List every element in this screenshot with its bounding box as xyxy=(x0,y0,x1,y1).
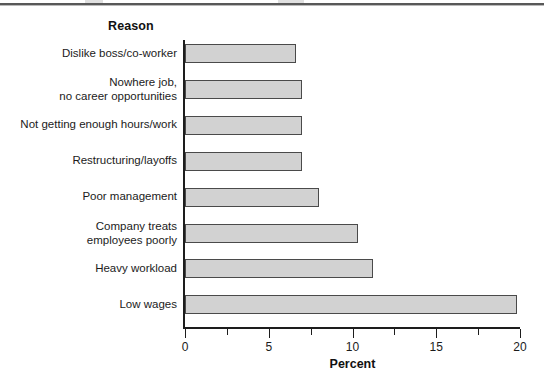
x-tick-label: 0 xyxy=(182,340,189,354)
bar-row: Company treats employees poorly xyxy=(185,224,358,243)
x-tick-major xyxy=(269,329,270,338)
bar-category-label: Low wages xyxy=(119,298,177,312)
bar-row: Not getting enough hours/work xyxy=(185,116,302,135)
x-axis-line xyxy=(183,327,520,329)
bar xyxy=(185,44,296,63)
x-axis-title: Percent xyxy=(185,357,520,371)
x-tick-major xyxy=(436,329,437,338)
bar xyxy=(185,80,302,99)
bar xyxy=(185,259,373,278)
x-tick-label: 10 xyxy=(346,340,359,354)
bar-row: Dislike boss/co-worker xyxy=(185,44,296,63)
bar xyxy=(185,116,302,135)
category-column-header: Reason xyxy=(108,19,154,33)
page-divider-rule xyxy=(0,3,544,5)
bar-chart-figure: Reason Dislike boss/co-workerNowhere job… xyxy=(0,0,544,390)
bar xyxy=(185,152,302,171)
x-tick-minor xyxy=(311,329,312,335)
bar-row: Heavy workload xyxy=(185,259,373,278)
bar-category-label: Heavy workload xyxy=(95,262,177,276)
x-tick-minor xyxy=(227,329,228,335)
bar-row: Poor management xyxy=(185,188,319,207)
x-tick-major xyxy=(353,329,354,338)
bar xyxy=(185,188,319,207)
bar xyxy=(185,224,358,243)
bar-category-label: Not getting enough hours/work xyxy=(20,119,177,133)
ink-smudge xyxy=(85,0,103,3)
bar xyxy=(185,295,517,314)
x-tick-minor xyxy=(478,329,479,335)
bar-category-label: Company treats employees poorly xyxy=(87,220,177,247)
bar-row: Low wages xyxy=(185,295,517,314)
x-tick-minor xyxy=(394,329,395,335)
bar-row: Nowhere job, no career opportunities xyxy=(185,80,302,99)
x-tick-major xyxy=(185,329,186,338)
ink-smudge xyxy=(278,0,304,3)
x-tick-label: 20 xyxy=(513,340,526,354)
bar-category-label: Restructuring/layoffs xyxy=(72,154,177,168)
bar-category-label: Poor management xyxy=(82,190,177,204)
bar-row: Restructuring/layoffs xyxy=(185,152,302,171)
x-tick-label: 5 xyxy=(265,340,272,354)
bar-category-label: Nowhere job, no career opportunities xyxy=(59,76,177,103)
bar-category-label: Dislike boss/co-worker xyxy=(62,47,177,61)
x-tick-label: 15 xyxy=(430,340,443,354)
plot-area: Dislike boss/co-workerNowhere job, no ca… xyxy=(185,40,520,327)
x-tick-major xyxy=(520,329,521,338)
